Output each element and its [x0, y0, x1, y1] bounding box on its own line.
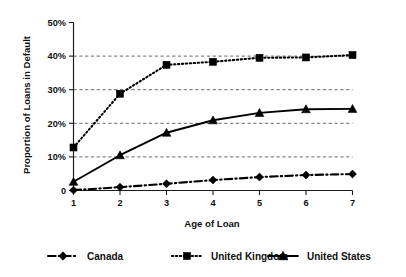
y-tick-label: 40%	[48, 51, 66, 61]
x-axis-ticks: 1234567	[71, 191, 355, 208]
gridlines	[74, 56, 353, 157]
square-marker	[117, 90, 124, 97]
legend-label: United States	[307, 251, 371, 262]
x-tick-label: 3	[164, 198, 169, 208]
triangle-marker	[69, 177, 78, 185]
x-tick-label: 7	[350, 198, 355, 208]
triangle-marker	[116, 151, 125, 159]
square-marker	[210, 58, 217, 65]
legend-label: Canada	[87, 251, 124, 262]
diamond-marker	[163, 180, 171, 188]
square-marker	[163, 61, 170, 68]
x-tick-label: 6	[303, 198, 308, 208]
y-tick-label: 10%	[48, 152, 66, 162]
data-series-layer	[69, 52, 357, 195]
series-united-states	[69, 105, 357, 186]
y-axis-title: Proportion of Loans in Default	[21, 35, 32, 174]
x-tick-label: 2	[117, 198, 122, 208]
line-chart: Proportion of Loans in Default Age of Lo…	[0, 0, 406, 277]
square-marker	[303, 54, 310, 61]
x-tick-label: 1	[71, 198, 76, 208]
diamond-marker	[302, 171, 310, 179]
diamond-marker	[59, 252, 67, 260]
square-marker	[256, 54, 263, 61]
square-marker	[184, 253, 191, 260]
square-marker	[70, 144, 77, 151]
legend-item-united-states[interactable]: United States	[268, 251, 371, 262]
diamond-marker	[256, 173, 264, 181]
diamond-marker	[70, 186, 78, 194]
y-axis-ticks: 010%20%30%40%50%	[48, 18, 74, 196]
x-axis-title: Age of Loan	[184, 218, 240, 229]
y-tick-label: 50%	[48, 18, 66, 28]
chart-container: Proportion of Loans in Default Age of Lo…	[0, 0, 406, 277]
series-line	[74, 55, 353, 147]
chart-legend: CanadaUnited KingdomUnited States	[48, 251, 371, 262]
series-united-kingdom	[70, 52, 356, 151]
diamond-marker	[349, 170, 357, 178]
diamond-marker	[209, 176, 217, 184]
square-marker	[349, 52, 356, 59]
diamond-marker	[116, 183, 124, 191]
y-tick-label: 0	[61, 186, 66, 196]
y-tick-label: 20%	[48, 119, 66, 129]
legend-item-canada[interactable]: Canada	[48, 251, 124, 262]
x-tick-label: 5	[257, 198, 262, 208]
y-tick-label: 30%	[48, 85, 66, 95]
x-tick-label: 4	[210, 198, 216, 208]
